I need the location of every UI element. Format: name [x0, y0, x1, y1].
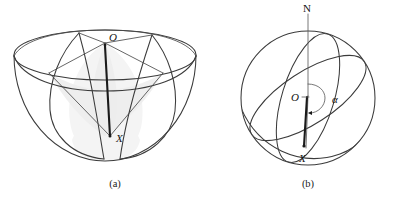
- label-N-panel-b: N: [303, 2, 311, 14]
- caption-panel-a: (a): [85, 178, 145, 189]
- caption-panel-b: (b): [278, 178, 338, 189]
- label-X-panel-b: X: [298, 152, 307, 164]
- label-alpha-panel-b: α: [332, 93, 338, 105]
- great-circle-lower-arc: [241, 108, 375, 158]
- angle-arc-alpha: [308, 84, 325, 113]
- figure-root: O X: [0, 0, 393, 199]
- point-X-marker-panel-b: [302, 144, 305, 147]
- panel-b-sphere-diagram: N O α X: [0, 0, 393, 199]
- label-O-panel-b: O: [291, 91, 299, 103]
